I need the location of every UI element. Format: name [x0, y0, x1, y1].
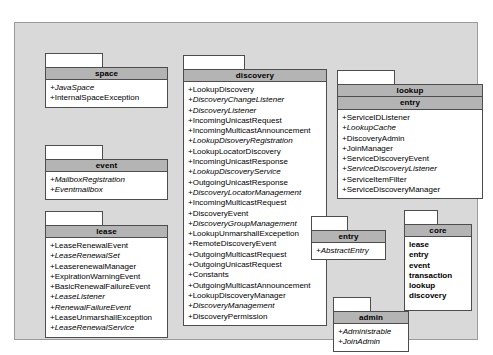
package-discovery[interactable]: discovery +LookupDiscovery+DiscoveryChan… [183, 55, 327, 326]
package-member: +DiscoveryGroupManagement [188, 219, 326, 229]
package-title-lookup: lookup [337, 84, 483, 97]
package-member: +LookupDiscoveryService [188, 167, 326, 177]
package-member: +LookupUnmarshallExcepetion [188, 229, 326, 239]
package-member: +LeaseRenewalEvent [50, 241, 167, 251]
package-tab-core [404, 210, 438, 224]
package-body-lookup: +ServiceIDListener+LookupCache+Discovery… [337, 110, 483, 199]
package-member: discovery [409, 291, 471, 301]
package-member: +LeaseRenewalSet [50, 251, 167, 261]
package-event[interactable]: event +MailboxRegistration+Eventmailbox [45, 145, 168, 200]
package-member: +IncomingMulticastRequest [188, 198, 326, 208]
package-member: +DiscoveryChangeListener [188, 95, 326, 105]
package-member: +JoinAdmin [338, 337, 408, 347]
package-member: entry [409, 250, 471, 260]
package-member: +MailboxRegistration [50, 175, 167, 185]
package-admin[interactable]: admin +Administrable+JoinAdmin [333, 297, 409, 352]
package-member: +JoinManager [342, 144, 482, 154]
package-entry[interactable]: entry +AbstractEntry [311, 216, 386, 260]
package-subtitle-lookup-entry: entry [337, 97, 483, 110]
package-member: +DiscoveryAdmin [342, 134, 482, 144]
uml-package-diagram: space +JavaSpace+InternalSpaceException … [0, 0, 493, 355]
package-member: +IncomingUnicastRequest [188, 116, 326, 126]
package-member: +IncomingUnicastResponse [188, 157, 326, 167]
package-member: +AbstractEntry [316, 246, 385, 256]
package-tab-lookup [337, 70, 395, 84]
package-member: +LeaserenewalManager [50, 262, 167, 272]
package-title-event: event [45, 159, 168, 172]
package-body-lease: +LeaseRenewalEvent+LeaseRenewalSet+Lease… [45, 238, 168, 338]
package-body-entry: +AbstractEntry [311, 243, 386, 260]
package-member: +LeaseListener [50, 292, 167, 302]
package-member: +JavaSpace [50, 83, 167, 93]
package-member: +LeaseRenewalService [50, 323, 167, 333]
package-member: +Administrable [338, 327, 408, 337]
package-member: +RenewalFailureEvent [50, 303, 167, 313]
package-member: +RemoteDiscoveryEvent [188, 239, 326, 249]
package-member: +LeaseUnmarshallException [50, 313, 167, 323]
package-space[interactable]: space +JavaSpace+InternalSpaceException [45, 53, 168, 108]
package-tab-event [45, 145, 103, 159]
package-tab-admin [333, 297, 371, 311]
package-title-lease: lease [45, 225, 168, 238]
package-member: lookup [409, 281, 471, 291]
diagram-canvas: space +JavaSpace+InternalSpaceException … [14, 22, 478, 340]
package-body-admin: +Administrable+JoinAdmin [333, 324, 409, 352]
package-member: +BasicRenewalFailureEvent [50, 282, 167, 292]
package-member: +ServiceDiscoveryEvent [342, 154, 482, 164]
package-member: +DiscoveryLocatorManagement [188, 188, 326, 198]
package-member: +LookupDiscoveryManager [188, 291, 326, 301]
package-title-admin: admin [333, 311, 409, 324]
package-member: +OutgoingUnicastRequest [188, 260, 326, 270]
package-tab-discovery [183, 55, 245, 69]
package-tab-entry [311, 216, 348, 230]
package-title-discovery: discovery [183, 69, 327, 82]
package-member: +Eventmailbox [50, 185, 167, 195]
package-member: +InternalSpaceException [50, 93, 167, 103]
package-member: +LookupLocatorDiscovery [188, 147, 326, 157]
package-member: +DiscoveryEvent [188, 209, 326, 219]
package-member: +Constants [188, 270, 326, 280]
package-member: +ServiceIDListener [342, 113, 482, 123]
package-member: +DiscoveryManagement [188, 301, 326, 311]
package-member: +LookupDiscovery [188, 85, 326, 95]
package-member: +ExpirationWarningEvent [50, 272, 167, 282]
package-member: +LookupDisoveryRegistration [188, 136, 326, 146]
package-member: +OutgoingMulticastRequest [188, 250, 326, 260]
package-title-space: space [45, 67, 168, 80]
package-body-event: +MailboxRegistration+Eventmailbox [45, 172, 168, 200]
package-member: +ServiceDiscoveryManager [342, 185, 482, 195]
package-member: transaction [409, 271, 471, 281]
package-member: +OutgoingUnicastResponse [188, 178, 326, 188]
package-title-core: core [404, 224, 472, 237]
package-member: lease [409, 240, 471, 250]
package-member: event [409, 261, 471, 271]
package-member: +LookupCache [342, 123, 482, 133]
package-tab-lease [45, 211, 103, 225]
package-member: +ServiceDiscoveryListener [342, 164, 482, 174]
package-body-core: leaseentryeventtransactionlookupdiscover… [404, 237, 472, 311]
package-title-entry: entry [311, 230, 386, 243]
package-member: +DiscoveryListener [188, 106, 326, 116]
package-member: +ServiceItemFilter [342, 175, 482, 185]
package-lookup[interactable]: lookup entry +ServiceIDListener+LookupCa… [337, 70, 483, 199]
package-member: +OutgoingMulticastAnnouncement [188, 281, 326, 291]
package-body-discovery: +LookupDiscovery+DiscoveryChangeListener… [183, 82, 327, 326]
package-body-space: +JavaSpace+InternalSpaceException [45, 80, 168, 108]
package-member: +DiscoveryPermission [188, 312, 326, 322]
package-lease[interactable]: lease +LeaseRenewalEvent+LeaseRenewalSet… [45, 211, 168, 338]
package-tab-space [45, 53, 103, 67]
package-member: +IncomingMulticastAnnouncement [188, 126, 326, 136]
package-core[interactable]: core leaseentryeventtransactionlookupdis… [404, 210, 472, 311]
